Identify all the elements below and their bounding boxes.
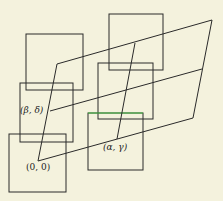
square-top-left: [26, 34, 83, 90]
label-alpha-gamma: (α, γ): [103, 142, 127, 152]
parallelogram-inner-line: [117, 43, 135, 139]
label-beta-delta: (β, δ): [20, 105, 43, 115]
label-origin: (0, 0): [26, 162, 50, 172]
